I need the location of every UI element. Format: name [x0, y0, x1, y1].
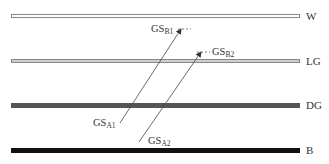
label-gs-a1: GSA1: [93, 117, 116, 132]
arrow-gradient-2: [139, 52, 210, 142]
label-gs-a2: GSA2: [148, 135, 171, 150]
gray-scale-diagram: W LG DG B GSB1 GSB2 GSA1 GSA2: [0, 0, 329, 164]
arrow-gradient-1: [120, 29, 191, 123]
label-gs-b2: GSB2: [212, 46, 234, 61]
label-gs-b1: GSB1: [151, 23, 173, 38]
